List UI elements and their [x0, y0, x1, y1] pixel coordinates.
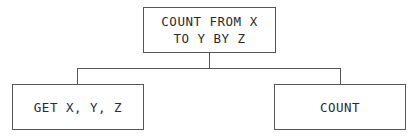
- child-node-count-label: COUNT: [320, 99, 360, 116]
- root-node-box: COUNT FROM X TO Y BY Z: [143, 7, 276, 53]
- root-node-label: COUNT FROM X TO Y BY Z: [161, 13, 257, 47]
- connector-left-down: [77, 68, 78, 85]
- connector-root-down: [209, 52, 210, 69]
- child-node-get-xyz-box: GET X, Y, Z: [12, 84, 144, 130]
- child-node-count-box: COUNT: [274, 84, 406, 130]
- connector-horizontal: [77, 68, 341, 69]
- child-node-get-xyz-label: GET X, Y, Z: [34, 99, 122, 116]
- connector-right-down: [340, 68, 341, 85]
